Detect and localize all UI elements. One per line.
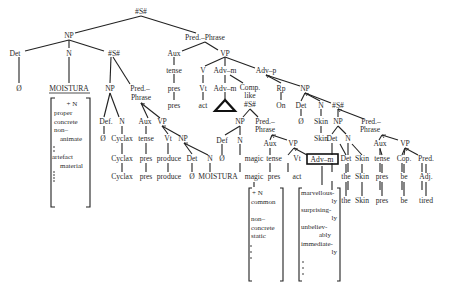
- feature-unbeliev: unbeliev-: [301, 223, 328, 231]
- node-adj-rel3: Adj.: [419, 172, 432, 181]
- node-vp-rel3: VP: [400, 139, 410, 148]
- feature-concrete-magic: concrete: [251, 224, 275, 232]
- feature-static: static: [251, 232, 266, 240]
- leaf-act-rel2: act: [293, 172, 303, 181]
- feature-ly-1: ly: [332, 197, 338, 205]
- node-n: N: [66, 49, 72, 58]
- feature-common: common: [251, 198, 276, 206]
- node-aux: Aux: [167, 49, 180, 58]
- feature-ly-3: ly: [332, 248, 338, 256]
- feature-matrix-moistura: + N proper concrete non– animate artefac…: [51, 98, 90, 207]
- node-def-rel2: Def: [216, 136, 228, 145]
- node-skin-advp: Skin: [314, 117, 328, 126]
- node-tense-rel2: tense: [266, 154, 282, 163]
- node-vt-rel2: Vt: [293, 154, 301, 163]
- node-cop-rel3: Cop.: [397, 154, 412, 163]
- node-comp-s: #S#: [244, 100, 256, 109]
- feature-ably: ably: [319, 231, 332, 239]
- triangle-icon: [215, 100, 235, 111]
- leaf-null-rel1: Ø: [100, 134, 106, 143]
- node-be-rel3: be: [400, 172, 408, 181]
- leaf-pres-rel1: pres: [140, 172, 153, 181]
- node-aux-rel2: Aux: [263, 139, 276, 148]
- node-adv-m-2: Adv–m: [214, 84, 237, 93]
- node-np-rel2: NP: [235, 117, 245, 126]
- leaf-the-rel3: the: [341, 196, 351, 205]
- leaf-pres-rel3: pres: [376, 196, 389, 205]
- node-magic-rel2: magic: [245, 154, 264, 163]
- node-v: V: [200, 66, 206, 75]
- node-det-rel3: Det: [327, 134, 339, 143]
- node-pres1: pres: [168, 84, 181, 93]
- node-tense: tense: [166, 66, 182, 75]
- node-pred-rel2-b: Phrase: [255, 125, 276, 134]
- node-np-obj-rel1: NP: [178, 134, 188, 143]
- node-the-rel3: the: [341, 172, 351, 181]
- node-vt: Vt: [199, 84, 207, 93]
- feature-immediate: immediate-: [301, 240, 334, 248]
- node-pres-rel3: pres: [376, 172, 389, 181]
- node-magic-rel2-b: magic: [245, 172, 264, 181]
- leaf-be-rel3: be: [400, 196, 408, 205]
- leaf-null-advp: Ø: [298, 117, 304, 126]
- node-produce-rel1-a: produce: [157, 154, 182, 163]
- node-vt-rel1: Vt: [164, 134, 172, 143]
- node-adv-m: Adv–m: [214, 66, 237, 75]
- feature-non: non–: [54, 126, 69, 134]
- feature-concrete: concrete: [54, 118, 78, 126]
- node-pred-adj-rel3: Pred.: [418, 154, 434, 163]
- syntax-tree-diagram: #S# NP Pred.–Phrase Det N #S# Aux VP Ø M…: [0, 0, 450, 296]
- node-adv-p: Adv–p: [256, 66, 277, 75]
- leaf-moistura-obj-rel1: MOISTURA: [198, 172, 238, 181]
- node-np-rel1: NP: [105, 84, 115, 93]
- leaf-cyclax-rel1: Cyclax: [111, 172, 133, 181]
- node-n-rel1: N: [119, 117, 125, 126]
- node-n-rel3: N: [345, 134, 351, 143]
- node-s-rel1: #S#: [108, 49, 120, 58]
- leaf-moistura: MOISTURA: [49, 84, 89, 93]
- feature-surprising: surprising-: [301, 206, 332, 214]
- feature-ly-2: ly: [332, 214, 338, 222]
- node-n-advp: N: [318, 101, 324, 110]
- feature-artefact: artefact: [52, 153, 73, 161]
- node-pred-rel1-a: Pred.–: [130, 84, 150, 93]
- node-np: NP: [64, 31, 74, 40]
- node-skin-rel3: Skin: [355, 154, 369, 163]
- node-n-rel2: N: [237, 136, 243, 145]
- node-pred-rel3-b: Phrase: [360, 125, 381, 134]
- node-pred-phrase: Pred.–Phrase: [185, 33, 225, 42]
- feature-plus-n: + N: [67, 100, 78, 108]
- node-pred-rel1-b: Phrase: [131, 93, 152, 102]
- feature-non-magic: non–: [251, 215, 266, 223]
- node-root-s: #S#: [135, 7, 147, 16]
- leaf-pres2: pres: [168, 101, 181, 110]
- node-rp: Rp: [277, 84, 286, 93]
- leaf-pres-rel2: pres: [268, 172, 281, 181]
- feature-proper: proper: [54, 109, 73, 117]
- feature-material: material: [60, 162, 83, 170]
- node-cyclax-rel1-b: Cyclax: [111, 154, 133, 163]
- leaf-produce-rel1: produce: [157, 172, 182, 181]
- node-vp: VP: [220, 49, 230, 58]
- feature-plus-n-magic: + N: [252, 189, 263, 197]
- node-aux-rel3: Aux: [373, 139, 386, 148]
- feature-matrix-magic: + N common non– concrete static: [249, 182, 283, 281]
- node-vp-rel1: VP: [157, 117, 167, 126]
- node-tense-rel1: tense: [138, 134, 154, 143]
- feature-animate: animate: [60, 135, 82, 143]
- node-np-rel3: NP: [333, 117, 343, 126]
- node-np-advp: NP: [300, 84, 310, 93]
- feature-marvellous: marvellous-: [301, 189, 335, 197]
- node-det-obj-rel1: Det: [187, 154, 199, 163]
- node-n-obj-rel1: N: [207, 154, 213, 163]
- node-vp-rel2: VP: [288, 139, 298, 148]
- node-def-rel1: Def.: [99, 117, 112, 126]
- leaf-null: Ø: [16, 84, 22, 93]
- node-det-advp: Det: [296, 101, 308, 110]
- node-s-rel3: #S#: [332, 101, 344, 110]
- leaf-tired-rel3: tired: [419, 196, 433, 205]
- leaf-null-rel2: Ø: [219, 154, 225, 163]
- node-aux-rel1: Aux: [138, 117, 151, 126]
- node-pres-rel1-a: pres: [140, 154, 153, 163]
- leaf-on: On: [276, 101, 285, 110]
